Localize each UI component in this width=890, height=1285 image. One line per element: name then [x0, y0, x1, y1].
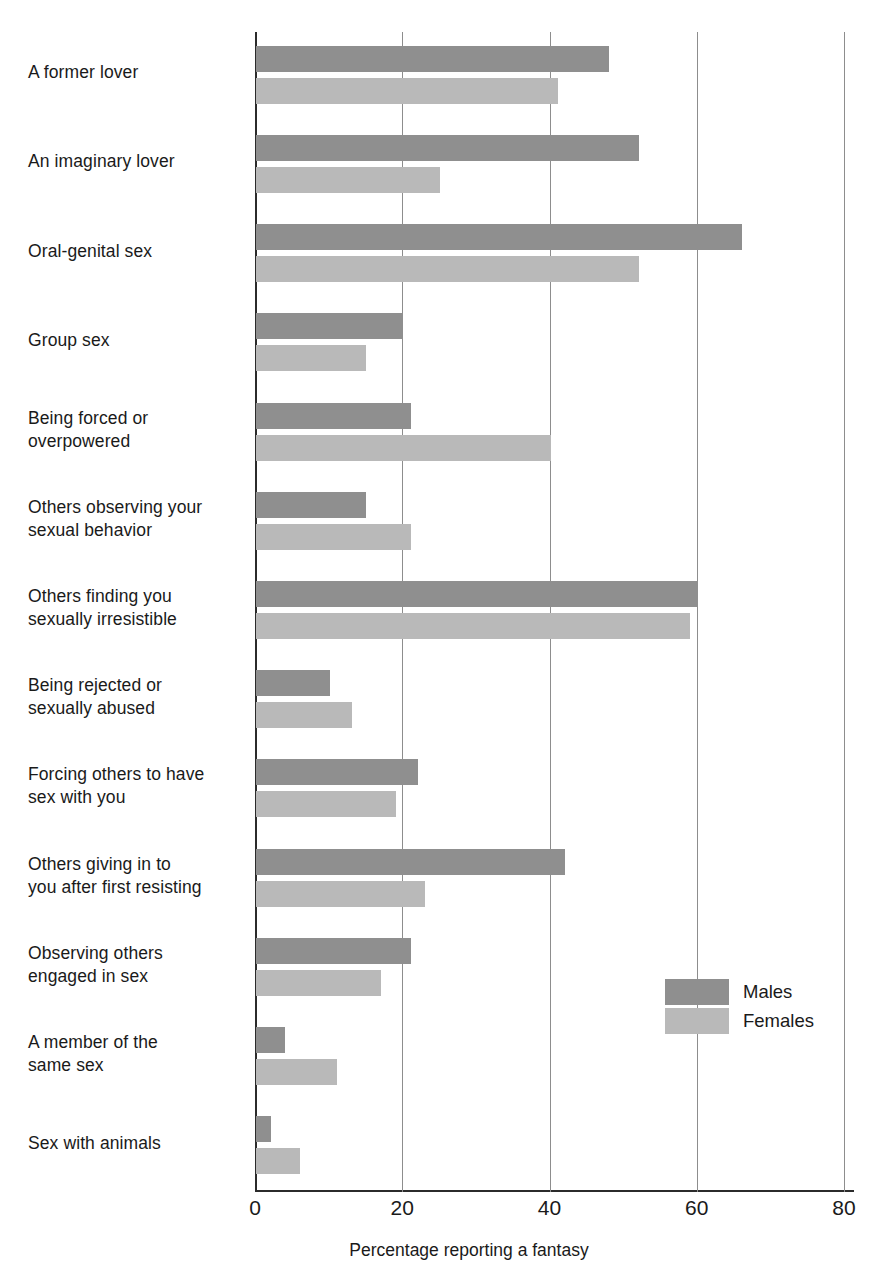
- x-axis-title: Percentage reporting a fantasy: [0, 1240, 890, 1261]
- x-tick-80: 80: [832, 1196, 855, 1220]
- category-label-line: A former lover: [28, 61, 228, 84]
- bar-females-8: [256, 791, 396, 817]
- chart-legend: Males Females: [665, 977, 814, 1035]
- category-label-line: Group sex: [28, 329, 228, 352]
- category-label-2: Oral-genital sex: [28, 240, 228, 263]
- bar-females-4: [256, 435, 551, 461]
- category-label-column: A former loverAn imaginary loverOral-gen…: [0, 32, 248, 1192]
- gridline-20: [402, 32, 403, 1192]
- bar-males-1: [256, 135, 639, 161]
- legend-label-females: Females: [743, 1010, 814, 1032]
- x-axis-line: [255, 1190, 854, 1192]
- category-label-0: A former lover: [28, 61, 228, 84]
- category-label-6: Others finding yousexually irresistible: [28, 585, 228, 631]
- category-label-line: Others finding you: [28, 585, 228, 608]
- category-label-line: sex with you: [28, 786, 228, 809]
- category-label-line: overpowered: [28, 430, 228, 453]
- category-label-line: An imaginary lover: [28, 150, 228, 173]
- category-label-line: you after first resisting: [28, 876, 228, 899]
- bar-males-10: [256, 938, 411, 964]
- category-label-line: Being forced or: [28, 407, 228, 430]
- category-label-line: A member of the: [28, 1031, 228, 1054]
- category-label-line: Forcing others to have: [28, 763, 228, 786]
- category-label-1: An imaginary lover: [28, 150, 228, 173]
- bar-males-8: [256, 759, 418, 785]
- x-tick-40: 40: [538, 1196, 561, 1220]
- fantasy-bar-chart: A former loverAn imaginary loverOral-gen…: [0, 0, 890, 1285]
- x-tick-0: 0: [249, 1196, 261, 1220]
- bar-females-12: [256, 1148, 300, 1174]
- category-label-line: Others observing your: [28, 496, 228, 519]
- gridline-80: [844, 32, 845, 1192]
- category-label-8: Forcing others to havesex with you: [28, 763, 228, 809]
- bar-males-6: [256, 581, 698, 607]
- bar-females-5: [256, 524, 411, 550]
- category-label-7: Being rejected orsexually abused: [28, 674, 228, 720]
- category-label-9: Others giving in toyou after first resis…: [28, 853, 228, 899]
- category-label-line: Being rejected or: [28, 674, 228, 697]
- bar-males-9: [256, 849, 565, 875]
- category-label-line: Sex with animals: [28, 1132, 228, 1155]
- category-label-line: Observing others: [28, 942, 228, 965]
- category-label-4: Being forced oroverpowered: [28, 407, 228, 453]
- x-axis-title-text: Percentage reporting a fantasy: [349, 1240, 588, 1261]
- females-swatch-icon: [665, 1008, 729, 1034]
- bar-males-2: [256, 224, 742, 250]
- legend-item-males: Males: [665, 977, 814, 1006]
- bar-males-0: [256, 46, 609, 72]
- bar-females-11: [256, 1059, 337, 1085]
- bar-males-5: [256, 492, 366, 518]
- bar-females-0: [256, 78, 558, 104]
- bar-females-7: [256, 702, 352, 728]
- bar-males-4: [256, 403, 411, 429]
- legend-label-males: Males: [743, 981, 792, 1003]
- bar-females-2: [256, 256, 639, 282]
- bar-males-11: [256, 1027, 285, 1053]
- bar-females-9: [256, 881, 425, 907]
- category-label-5: Others observing yoursexual behavior: [28, 496, 228, 542]
- bar-males-7: [256, 670, 330, 696]
- category-label-line: sexually irresistible: [28, 608, 228, 631]
- gridline-40: [550, 32, 551, 1192]
- category-label-line: engaged in sex: [28, 965, 228, 988]
- category-label-line: Others giving in to: [28, 853, 228, 876]
- category-label-12: Sex with animals: [28, 1132, 228, 1155]
- males-swatch-icon: [665, 979, 729, 1005]
- bar-females-3: [256, 345, 366, 371]
- bar-females-10: [256, 970, 381, 996]
- category-label-line: same sex: [28, 1054, 228, 1077]
- category-label-11: A member of thesame sex: [28, 1031, 228, 1077]
- x-tick-20: 20: [391, 1196, 414, 1220]
- x-tick-60: 60: [685, 1196, 708, 1220]
- category-label-10: Observing othersengaged in sex: [28, 942, 228, 988]
- category-label-line: Oral-genital sex: [28, 240, 228, 263]
- category-label-line: sexual behavior: [28, 519, 228, 542]
- bar-females-1: [256, 167, 440, 193]
- category-label-3: Group sex: [28, 329, 228, 352]
- bar-females-6: [256, 613, 690, 639]
- bar-males-12: [256, 1116, 271, 1142]
- legend-item-females: Females: [665, 1006, 814, 1035]
- category-label-line: sexually abused: [28, 697, 228, 720]
- bar-males-3: [256, 313, 403, 339]
- y-axis-line: [255, 32, 257, 1192]
